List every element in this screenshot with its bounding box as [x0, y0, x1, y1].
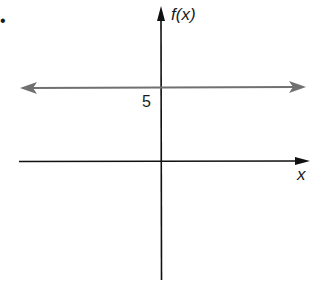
- x-axis: [19, 161, 298, 162]
- graph-canvas: [0, 0, 318, 282]
- x-axis-arrow-icon: [295, 157, 310, 165]
- y-axis-arrow-icon: [157, 6, 165, 21]
- bullet-marker: •: [0, 12, 6, 30]
- graph: • f(x) x 5: [0, 0, 318, 282]
- y-axis: [161, 20, 162, 280]
- function-line: [30, 87, 295, 88]
- x-axis-label: x: [297, 165, 306, 185]
- intercept-label: 5: [142, 93, 151, 111]
- y-axis-label: f(x): [171, 5, 196, 25]
